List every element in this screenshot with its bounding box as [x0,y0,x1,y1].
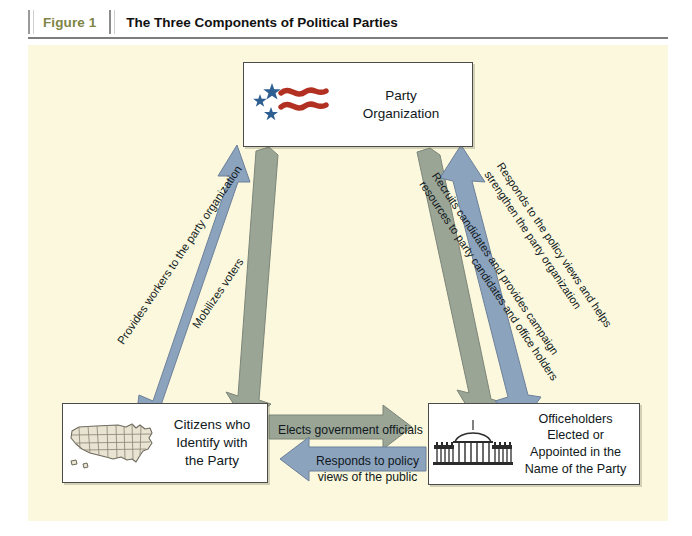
white-house-icon [429,418,517,470]
figure-number-label: Figure 1 [43,15,96,30]
caption-left-rule [28,10,34,34]
united-states-map-icon [63,415,163,471]
figure-caption-bar: Figure 1 The Three Components of Politic… [28,8,668,36]
figure-root: Figure 1 The Three Components of Politic… [0,0,692,536]
node-party-organization: Party Organization [243,62,473,147]
party-line-1: Party [340,87,462,105]
citizens-line-2: Identify with [163,434,261,452]
office-line-1: Officeholders [517,411,634,428]
figure-panel: Provides workers to the party organizati… [28,45,668,521]
party-line-2: Organization [340,105,462,123]
arrow-provides-workers [136,145,250,422]
office-line-2: Elected or [517,427,634,444]
citizens-line-3: the Party [163,452,261,470]
us-flag-stars-stripes-icon [244,80,340,130]
caption-divider-rule [109,10,115,34]
figure-title: The Three Components of Political Partie… [126,15,398,30]
caption-underline [28,37,668,39]
arrow-responds-public [280,437,426,481]
node-officeholders: Officeholders Elected or Appointed in th… [428,403,640,485]
office-line-3: Appointed in the [517,444,634,461]
citizens-line-1: Citizens who [163,416,261,434]
node-citizens: Citizens who Identify with the Party [62,403,268,483]
office-line-4: Name of the Party [517,461,634,478]
arrow-elects-officials [269,405,412,449]
node-citizens-label: Citizens who Identify with the Party [163,416,267,469]
node-officeholders-label: Officeholders Elected or Appointed in th… [517,411,639,477]
node-party-organization-label: Party Organization [340,87,472,123]
